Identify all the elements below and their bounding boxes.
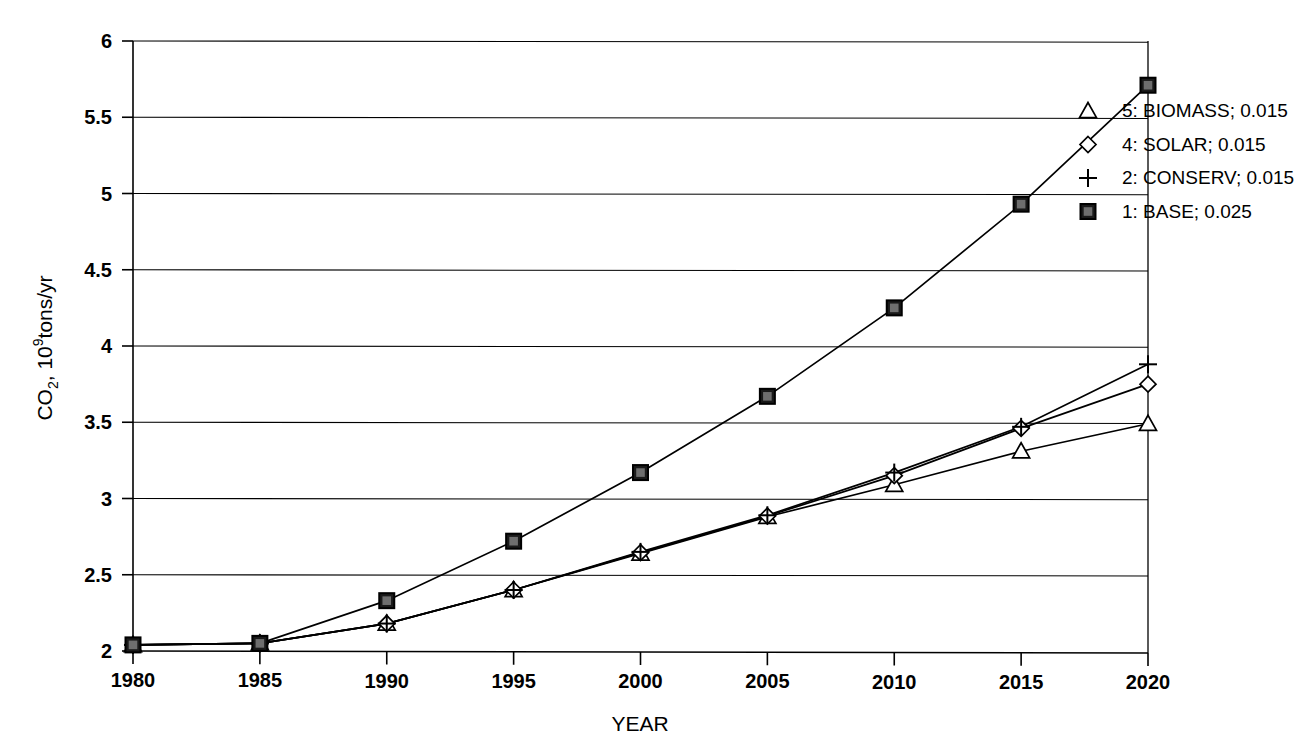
x-tick-label: 2015 bbox=[999, 671, 1044, 693]
legend-label: 4: SOLAR; 0.015 bbox=[1122, 134, 1266, 155]
y-tick-label: 3.5 bbox=[84, 411, 112, 433]
y-tick-label: 4.5 bbox=[84, 259, 112, 281]
y-axis-title-part-1: CO bbox=[33, 389, 56, 421]
x-tick-label: 1995 bbox=[491, 670, 536, 692]
legend-label: 5: BIOMASS; 0.015 bbox=[1122, 100, 1288, 121]
legend-label: 2: CONSERV; 0.015 bbox=[1122, 167, 1294, 188]
data-point-base-2015 bbox=[1014, 197, 1029, 212]
y-tick-label: 4 bbox=[101, 335, 113, 357]
x-tick-label: 2020 bbox=[1126, 671, 1171, 693]
y-tick-label: 2 bbox=[101, 640, 112, 662]
x-tick-label: 1985 bbox=[238, 669, 283, 691]
x-tick-label: 1980 bbox=[111, 669, 156, 691]
data-point-base-1995 bbox=[506, 534, 521, 549]
data-point-base-1980 bbox=[126, 637, 141, 652]
y-tick-label: 3 bbox=[101, 488, 112, 510]
data-point-base-2000 bbox=[633, 465, 648, 480]
x-tick-label: 2010 bbox=[872, 671, 917, 693]
legend-marker-square-filled-icon bbox=[1081, 204, 1096, 219]
chart-background bbox=[0, 0, 1314, 753]
y-axis-title-superscript: 9 bbox=[30, 338, 46, 346]
x-tick-label: 2005 bbox=[745, 670, 790, 692]
y-axis-title-subscript: 2 bbox=[45, 381, 61, 389]
y-tick-label: 5.5 bbox=[84, 106, 112, 128]
legend-label: 1: BASE; 0.025 bbox=[1122, 201, 1252, 222]
chart-figure: 22.533.544.555.56 1980198519901995200020… bbox=[0, 0, 1314, 753]
y-tick-label: 2.5 bbox=[84, 564, 112, 586]
x-tick-label: 2000 bbox=[618, 670, 663, 692]
data-point-base-2020 bbox=[1141, 78, 1156, 93]
data-point-base-1990 bbox=[379, 593, 394, 608]
y-tick-label: 5 bbox=[101, 183, 112, 205]
x-axis-tick-labels: 198019851990199520002005201020152020 bbox=[111, 669, 1171, 693]
data-point-base-2005 bbox=[760, 389, 775, 404]
data-point-base-1985 bbox=[252, 636, 267, 651]
line-chart: 22.533.544.555.56 1980198519901995200020… bbox=[0, 0, 1314, 753]
x-tick-label: 1990 bbox=[365, 670, 410, 692]
y-axis-title-part-3: tons/yr bbox=[33, 275, 56, 338]
x-axis-title: YEAR bbox=[611, 712, 668, 735]
y-tick-label: 6 bbox=[101, 30, 112, 52]
y-axis-title-part-2: , 10 bbox=[33, 346, 56, 381]
data-point-base-2010 bbox=[887, 300, 902, 315]
